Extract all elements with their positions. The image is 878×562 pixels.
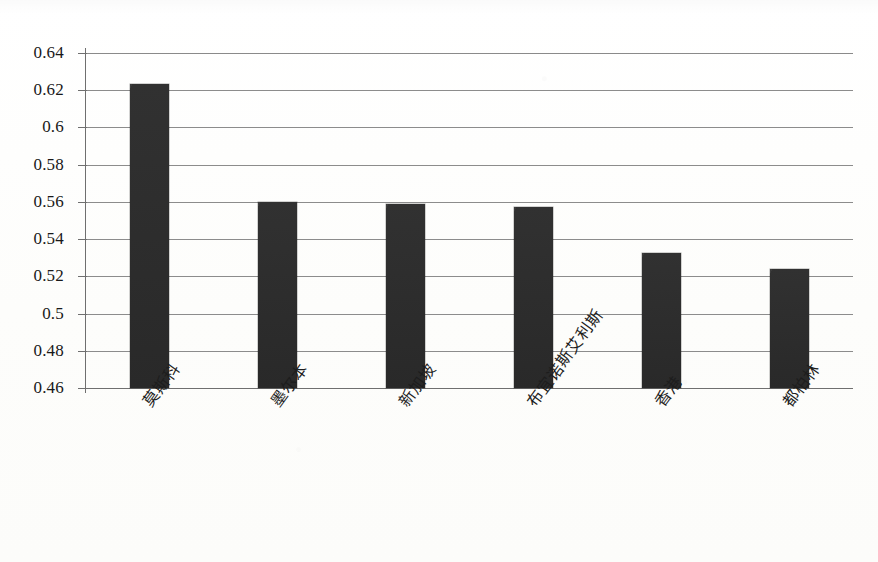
grid-line (85, 388, 853, 389)
y-axis-tick (78, 351, 87, 352)
y-axis-tick-label: 0.46 (33, 379, 64, 396)
grid-line (85, 165, 853, 166)
y-axis-tick-label: 0.48 (33, 342, 64, 359)
y-axis-tick-label: 0.64 (33, 44, 64, 61)
y-axis-tick-label: 0.54 (33, 230, 64, 247)
grid-line (85, 53, 853, 54)
y-axis-tick (78, 239, 87, 240)
y-axis-tick (78, 165, 87, 166)
y-axis-tick-label: 0.58 (33, 156, 64, 173)
y-axis-tick (78, 202, 87, 203)
y-axis-tick-labels: 0.640.620.60.580.560.540.520.50.480.46 (0, 0, 72, 562)
grid-line (85, 314, 853, 315)
grid-line (85, 276, 853, 277)
bar (386, 204, 425, 388)
y-axis-tick-label: 0.56 (33, 193, 64, 210)
y-axis-tick-label: 0.62 (33, 81, 64, 98)
y-axis-tick (78, 314, 87, 315)
y-axis-tick (78, 276, 87, 277)
y-axis-tick (78, 388, 87, 389)
y-axis-tick-label: 0.5 (42, 305, 64, 322)
bar (642, 253, 681, 388)
bar (258, 202, 297, 388)
y-axis-tick-label: 0.52 (33, 267, 64, 284)
grid-line (85, 351, 853, 352)
y-axis-tick (78, 127, 87, 128)
bar-chart-figure: 0.640.620.60.580.560.540.520.50.480.46 莫… (0, 0, 878, 562)
grid-line (85, 239, 853, 240)
y-axis-tick (78, 53, 87, 54)
bar (130, 84, 169, 388)
y-axis-tick-label: 0.6 (42, 118, 64, 135)
grid-line (85, 202, 853, 203)
plot-area (85, 53, 853, 388)
bar (514, 207, 553, 388)
grid-line (85, 127, 853, 128)
scan-smudge (0, 0, 878, 14)
y-axis-tick (78, 90, 87, 91)
grid-line (85, 90, 853, 91)
